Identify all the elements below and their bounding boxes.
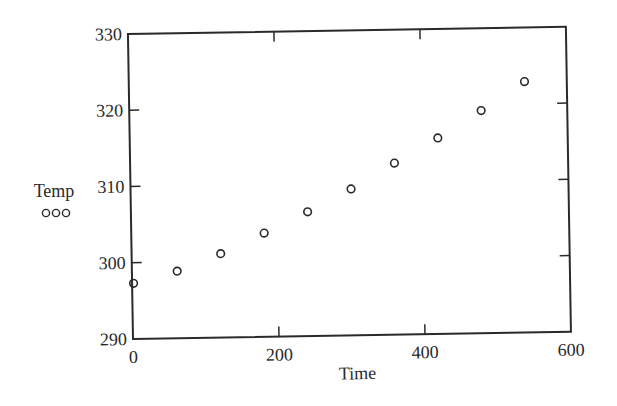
y-tick-label: 310 [97,177,124,197]
data-point [434,134,442,142]
legend-circle-icon [62,209,69,216]
data-point [304,208,312,216]
legend-circle-icon [52,209,59,216]
data-point [477,107,485,115]
x-axis-label: Time [339,363,377,384]
y-axis-label: Temp [34,181,75,201]
x-tick-label: 600 [558,340,585,360]
data-point [260,229,268,237]
y-tick-label: 290 [100,329,127,349]
data-points [126,78,531,287]
plot-area: 0200400600290300310320330 Time [95,17,585,388]
scatter-chart: 0200400600290300310320330 Time Temp [0,0,617,406]
axis-ticks [128,27,571,339]
data-point [130,279,138,287]
data-point [173,267,181,275]
x-tick-label: 200 [266,344,293,364]
data-point [217,250,225,258]
data-point [347,185,355,193]
x-tick-label: 400 [412,342,439,362]
data-point [391,159,399,167]
legend-circle-icon [42,209,49,216]
y-tick-label: 300 [99,253,126,273]
y-tick-label: 330 [95,24,122,44]
plot-frame [128,27,571,339]
tick-labels: 0200400600290300310320330 [95,17,585,368]
y-tick-label: 320 [96,100,123,120]
legend-marker [42,209,69,216]
data-point [521,78,529,86]
x-tick-label: 0 [129,347,138,367]
